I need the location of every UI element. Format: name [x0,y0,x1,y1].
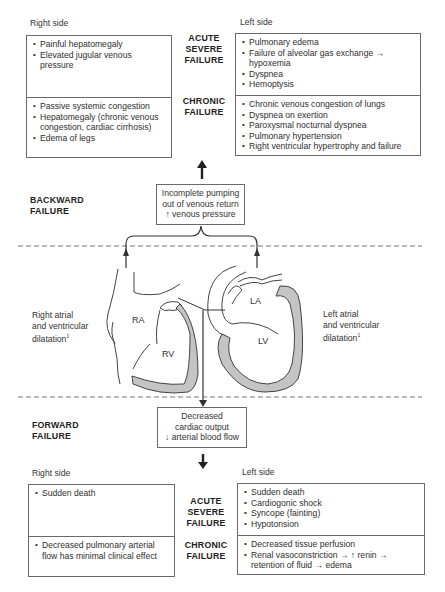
backward-right-side-box: Painful hepatomegaly Elevated jugular ve… [26,35,172,158]
list-item: Cardiogonic shock [244,498,419,509]
label-line: FAILURE [180,518,232,529]
list-item: Dyspnea [242,69,415,80]
box-line: out of venous return [157,199,244,210]
list-item: Elevated jugular venous pressure [33,50,166,71]
forward-center-box: Decreased cardiac output ↓ arterial bloo… [157,407,247,448]
ra-label: RA [132,315,145,325]
label-line: SEVERE [178,44,230,55]
list-item: Right ventricular hypertrophy and failur… [242,141,415,152]
forward-left-side-box: Sudden death Cardiogonic shock Syncope (… [237,483,425,575]
box-line: ↓ arterial blood flow [158,432,246,443]
label-line: ACUTE [180,496,232,507]
label-line: and ventricular [323,320,379,331]
list-item: Syncope (fainting) [244,508,419,519]
label-line: Right atrial [32,310,88,321]
forward-right-acute-list: Sudden death [35,488,169,499]
list-item: Decreased pulmonary arterial flow has mi… [35,540,169,561]
list-item: Renal vasoconstriction → ↑ renin → reten… [244,550,419,571]
backward-left-side-box: Pulmonary edema Failure of alveolar gas … [235,33,421,156]
list-item: Failure of alveolar gas exchange → hypox… [242,48,415,69]
box-line: Incomplete pumping [157,188,244,199]
label-line: ACUTE [178,33,230,44]
up-arrow-icon [123,248,129,256]
forward-failure-label: FORWARD FAILURE [32,420,79,442]
list-item: Passive systemic congestion [33,101,166,112]
forward-chronic-label: CHRONIC FAILURE [180,540,232,562]
box-line: cardiac output [158,422,246,433]
list-item: Painful hepatomegaly [33,39,166,50]
label-line: and ventricular [32,321,88,332]
footnote-mark: 1 [66,333,69,339]
forward-left-chronic-list: Decreased tissue perfusion Renal vasocon… [244,539,419,571]
label-line: FORWARD [32,420,79,431]
label-line: FAILURE [30,206,84,217]
box-line: Decreased [158,411,246,422]
top-left-side-label: Left side [240,17,273,27]
bottom-left-side-label: Left side [242,467,275,477]
bottom-right-side-label: Right side [32,468,70,478]
right-dilatation-label: Right atrial and ventricular dilatation1 [32,310,88,345]
label-text: dilatation [32,334,66,344]
bracket-icon [126,226,257,244]
backward-right-chronic-list: Passive systemic congestion Hepatomegaly… [33,101,166,143]
backward-center-box: Incomplete pumping out of venous return … [156,184,245,225]
label-line: FAILURE [180,551,232,562]
list-item: Hypotonsion [244,519,419,530]
backward-failure-label: BACKWARD FAILURE [30,195,84,217]
rv-label: RV [162,349,174,359]
list-item: Paroxysmal nocturnal dyspnea [242,120,415,131]
label-line: FAILURE [178,55,230,66]
label-line: FAILURE [32,431,79,442]
list-item: Sudden death [35,488,169,499]
box-line: ↑ venous pressure [157,209,244,220]
label-line: FAILURE [178,107,230,118]
forward-acute-severe-label: ACUTE SEVERE FAILURE [180,496,232,528]
label-line: BACKWARD [30,195,84,206]
footnote-mark: 1 [357,332,360,338]
list-item: Pulmonary edema [242,37,415,48]
list-item: Chronic venous congestion of lungs [242,99,415,110]
forward-left-acute-list: Sudden death Cardiogonic shock Syncope (… [244,487,419,529]
label-line: dilatation1 [323,330,379,343]
list-item: Hepatomegaly (chronic venous congestion,… [33,112,166,133]
down-arrow-icon [199,400,207,407]
top-right-side-label: Right side [30,18,68,28]
list-item: Sudden death [244,487,419,498]
backward-right-acute-list: Painful hepatomegaly Elevated jugular ve… [33,39,166,71]
la-label: LA [250,296,261,306]
forward-right-side-box: Sudden death Decreased pulmonary arteria… [28,484,175,577]
list-item: Pulmonary hypertension [242,131,415,142]
list-item: Hemoptysis [242,79,415,90]
left-dilatation-label: Left atrial and ventricular dilatation1 [323,309,379,344]
list-item: Dyspnea on exertion [242,110,415,121]
label-line: Left atrial [323,309,379,320]
backward-left-chronic-list: Chronic venous congestion of lungs Dyspn… [242,99,415,152]
up-arrow-icon [196,160,208,180]
label-line: dilatation1 [32,331,88,344]
list-item: Decreased tissue perfusion [244,539,419,550]
label-text: dilatation [323,333,357,343]
up-arrow-icon [254,248,260,256]
lv-label: LV [258,336,268,346]
backward-acute-severe-label: ACUTE SEVERE FAILURE [178,33,230,65]
forward-right-chronic-list: Decreased pulmonary arterial flow has mi… [35,540,169,561]
label-line: CHRONIC [180,540,232,551]
down-arrow-icon [197,454,209,470]
backward-left-acute-list: Pulmonary edema Failure of alveolar gas … [242,37,415,90]
label-line: SEVERE [180,507,232,518]
label-line: CHRONIC [178,96,230,107]
backward-chronic-label: CHRONIC FAILURE [178,96,230,118]
list-item: Edema of legs [33,133,166,144]
